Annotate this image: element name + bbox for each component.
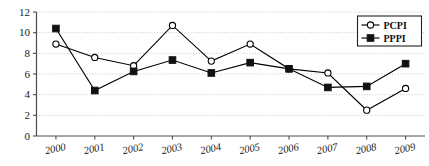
data-point-marker — [130, 68, 137, 75]
data-point-marker — [402, 85, 408, 91]
legend-item-label: PPPI — [384, 33, 406, 44]
x-tick-label: 2000 — [44, 141, 68, 156]
data-point-marker — [367, 35, 374, 42]
data-point-marker — [169, 57, 176, 64]
x-tick-label: 2002 — [121, 141, 145, 156]
data-point-marker — [91, 87, 98, 94]
y-axis-ticks: 024681012 — [19, 6, 37, 142]
data-point-marker — [402, 60, 409, 67]
y-tick-label: 12 — [19, 6, 30, 18]
data-point-marker — [363, 83, 370, 90]
y-tick-label: 0 — [25, 130, 31, 142]
x-tick-label: 2007 — [316, 141, 340, 156]
data-point-marker — [325, 70, 331, 76]
series-line — [56, 29, 406, 91]
data-point-marker — [53, 25, 60, 32]
x-tick-label: 2005 — [238, 141, 261, 156]
x-tick-label: 2003 — [160, 141, 183, 156]
data-point-marker — [92, 54, 98, 60]
data-point-marker — [364, 107, 370, 113]
data-point-marker — [367, 22, 373, 28]
y-tick-label: 2 — [25, 109, 31, 121]
data-point-marker — [286, 66, 293, 73]
y-tick-label: 6 — [25, 68, 31, 80]
data-point-marker — [53, 41, 59, 47]
y-tick-label: 4 — [25, 88, 31, 100]
line-chart: 0246810122000200120022003200420052006200… — [0, 0, 429, 166]
data-point-marker — [247, 59, 254, 66]
x-tick-label: 2008 — [355, 141, 379, 156]
data-point-marker — [325, 84, 332, 91]
x-tick-label: 2006 — [277, 141, 301, 156]
data-point-marker — [208, 58, 214, 64]
data-point-marker — [247, 41, 253, 47]
y-tick-label: 10 — [19, 26, 31, 38]
legend-item-label: PCPI — [384, 20, 407, 31]
data-point-marker — [208, 70, 215, 77]
y-tick-label: 8 — [25, 47, 31, 59]
x-tick-label: 2001 — [83, 141, 106, 156]
x-axis-ticks: 2000200120022003200420052006200720082009 — [44, 136, 417, 156]
x-tick-label: 2004 — [199, 141, 223, 156]
x-tick-label: 2009 — [393, 141, 417, 156]
legend: PCPIPPPI — [358, 16, 422, 46]
data-point-marker — [169, 22, 175, 28]
chart-canvas: 0246810122000200120022003200420052006200… — [0, 0, 429, 166]
